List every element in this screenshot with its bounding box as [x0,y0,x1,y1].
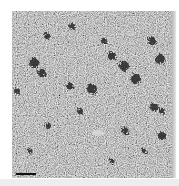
micrograph-image [12,11,172,178]
texture-graphic [12,11,172,178]
bottom-band [0,179,179,186]
scale-bar [16,173,36,175]
image-right-edge [172,11,176,178]
